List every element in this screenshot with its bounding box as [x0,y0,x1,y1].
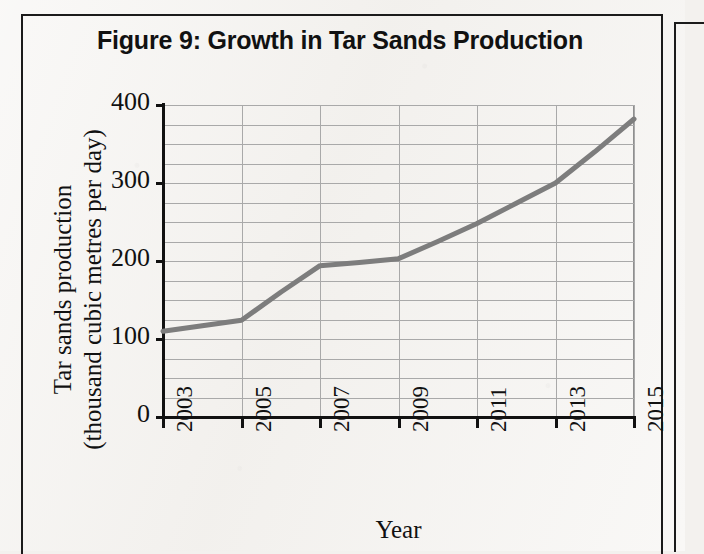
y-axis-tick [156,104,165,107]
y-axis-title: Tar sands production (thousand cubic met… [48,125,107,455]
y-axis-title-line2: (thousand cubic metres per day) [77,125,107,455]
y-axis-title-line1: Tar sands production [48,125,78,455]
y-axis-tick-label: 400 [80,87,150,117]
y-axis-tick [156,338,165,341]
y-axis-tick [156,182,165,185]
x-axis-tick [633,418,636,428]
series-line [163,105,634,417]
x-axis-title: Year [163,516,634,544]
x-axis-tick [398,418,401,428]
y-axis-tick [156,260,165,263]
x-axis-tick [319,418,322,428]
x-axis-tick [241,418,244,428]
gridline-vertical [634,105,635,417]
x-axis-tick [555,418,558,428]
x-axis-tick-label: 2015 [643,386,669,432]
x-axis-tick [162,418,165,428]
x-axis-tick [476,418,479,428]
